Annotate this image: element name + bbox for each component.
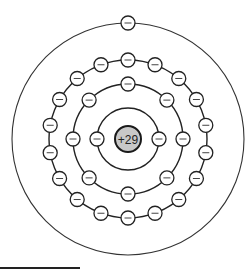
electron: [199, 146, 213, 160]
electron: [121, 77, 135, 91]
electron: [82, 171, 96, 185]
electron: [121, 211, 135, 225]
electron: [82, 93, 96, 107]
electron: [43, 118, 57, 132]
electron: [160, 93, 174, 107]
electron: [90, 132, 104, 146]
electron: [94, 206, 108, 220]
electron: [148, 206, 162, 220]
electron: [189, 93, 203, 107]
electron: [172, 193, 186, 207]
electron: [189, 172, 203, 186]
nucleus-charge-label: +29: [118, 133, 139, 147]
bohr-atom-diagram: +29: [0, 0, 251, 270]
electron: [53, 172, 67, 186]
nucleus: +29: [115, 126, 141, 152]
electron: [94, 58, 108, 72]
electrons: [43, 16, 213, 225]
electron: [66, 132, 80, 146]
electron: [70, 71, 84, 85]
electron: [160, 171, 174, 185]
electron: [121, 16, 135, 30]
electron: [148, 58, 162, 72]
electron: [43, 146, 57, 160]
electron: [152, 132, 166, 146]
electron: [70, 193, 84, 207]
electron: [121, 53, 135, 67]
electron: [53, 93, 67, 107]
footer-rule: [0, 267, 80, 269]
electron: [199, 118, 213, 132]
electron: [121, 187, 135, 201]
electron: [176, 132, 190, 146]
electron: [172, 71, 186, 85]
